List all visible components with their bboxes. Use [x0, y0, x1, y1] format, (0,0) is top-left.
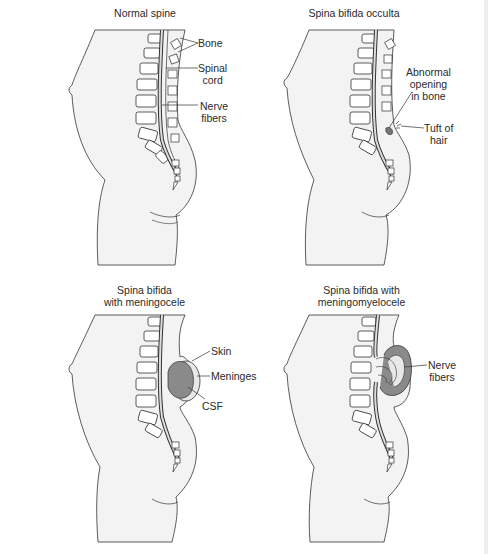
body-outline — [69, 315, 196, 542]
body-outline — [284, 30, 410, 265]
body-outline — [69, 30, 196, 265]
label-nerve-fibers: Nerve fibers — [428, 359, 456, 383]
label-tuft-of-hair: Tuft of hair — [424, 122, 453, 146]
label-abnormal-opening: Abnormal opening in bone — [406, 66, 451, 102]
panel-normal-spine: Normal spine — [0, 0, 244, 277]
meningocele-illustration — [0, 277, 244, 554]
label-bone: Bone — [198, 37, 223, 49]
panel-spina-bifida-occulta: Spina bifida occulta — [244, 0, 488, 277]
label-spinal-cord: Spinal cord — [198, 62, 227, 86]
label-csf: CSF — [202, 400, 223, 412]
panel-meningocele: Spina bifida with meningocele — [0, 277, 244, 554]
panel-meningomyelocele: Spina bifida with meningomyelocele — [244, 277, 488, 554]
meninges-sac — [168, 361, 194, 398]
tuft-of-hair — [396, 121, 401, 128]
meningomyelocele-illustration — [244, 277, 488, 554]
label-skin: Skin — [211, 345, 231, 357]
label-nerve-fibers: Nerve fibers — [200, 100, 228, 124]
